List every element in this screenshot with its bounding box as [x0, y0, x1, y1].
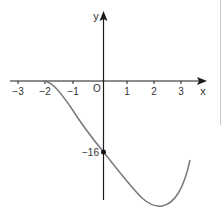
x-tick-label: 2 — [151, 86, 157, 97]
x-tick-label: −1 — [67, 86, 79, 97]
y-axis-label: y — [93, 10, 99, 22]
x-tick-label: −3 — [12, 86, 24, 97]
graph: −3 −2 −1 1 2 3 O x y −16 — [0, 0, 222, 210]
curve-line — [45, 81, 190, 206]
x-axis-label: x — [200, 85, 206, 97]
y-intercept-label: −16 — [82, 147, 99, 158]
origin-label: O — [93, 83, 101, 94]
y-intercept-point — [101, 150, 106, 155]
panel-border — [220, 0, 221, 125]
x-tick-label: 3 — [178, 86, 184, 97]
x-tick-label: −2 — [39, 86, 51, 97]
x-tick-label: 1 — [124, 86, 130, 97]
